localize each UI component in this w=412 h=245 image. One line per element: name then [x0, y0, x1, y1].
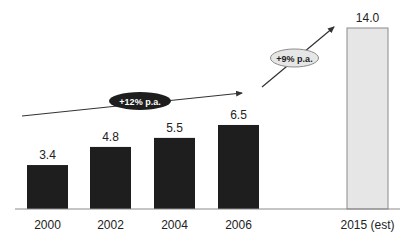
category-label: 2000: [34, 218, 61, 232]
bar-value-label: 5.5: [166, 121, 183, 135]
bars-group: [27, 28, 388, 209]
category-label: 2015 (est): [340, 218, 394, 232]
bar-value-label: 14.0: [356, 11, 380, 25]
category-label: 2006: [225, 218, 252, 232]
category-label: 2002: [97, 218, 124, 232]
bar-2000: [27, 165, 68, 209]
bar-chart: 3.44.85.56.514.0 20002002200420062015 (e…: [0, 0, 412, 245]
category-labels-group: 20002002200420062015 (est): [34, 218, 394, 232]
bar-value-label: 4.8: [102, 130, 119, 144]
category-label: 2004: [161, 218, 188, 232]
bar-2004: [154, 138, 195, 209]
value-labels-group: 3.44.85.56.514.0: [39, 11, 379, 162]
growth-badge-forecast-text: +9% p.a.: [276, 54, 312, 64]
bar-2006: [218, 125, 259, 209]
growth-badge-historic-text: +12% p.a.: [119, 97, 160, 107]
bar-value-label: 3.4: [39, 148, 56, 162]
bar-value-label: 6.5: [230, 108, 247, 122]
bar-2015-est: [347, 28, 388, 209]
bar-2002: [90, 147, 131, 209]
